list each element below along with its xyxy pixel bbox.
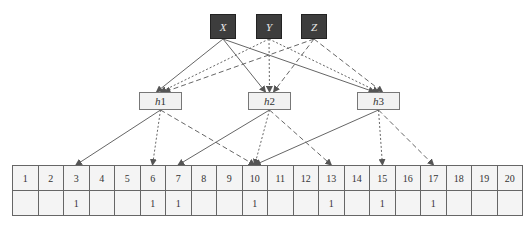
bit-value-cell [268, 191, 294, 216]
input-node-y: Y [256, 14, 282, 39]
bit-value-cell [472, 191, 498, 216]
hash-label-num: 2 [270, 95, 276, 107]
bit-value-cell [293, 191, 319, 216]
bit-index-cell: 6 [140, 166, 166, 191]
bit-index-cell: 4 [89, 166, 115, 191]
bit-index-cell: 19 [472, 166, 498, 191]
bit-index-row: 1234567891011121314151617181920 [13, 166, 523, 191]
edge-h2-to-bit-10 [255, 110, 270, 165]
edge-h1-to-bit-3 [76, 110, 161, 165]
bit-value-cell: 1 [319, 191, 345, 216]
bit-value-cell [395, 191, 421, 216]
input-node-x: X [210, 14, 236, 39]
hash-node-h1: h1 [139, 92, 182, 110]
bit-value-cell: 1 [421, 191, 447, 216]
input-node-z: Z [301, 14, 327, 39]
edge-x-to-h1 [157, 39, 224, 92]
edge-z-to-h1 [165, 39, 315, 92]
bit-value-cell [344, 191, 370, 216]
bit-index-cell: 15 [370, 166, 396, 191]
bit-index-cell: 8 [191, 166, 217, 191]
edge-y-to-h2 [269, 39, 270, 92]
edge-x-to-h3 [223, 39, 375, 92]
bit-index-cell: 2 [38, 166, 64, 191]
bit-index-cell: 11 [268, 166, 294, 191]
edge-h3-to-bit-15 [379, 110, 383, 165]
edge-h2-to-bit-7 [178, 110, 269, 165]
bit-value-cell [217, 191, 243, 216]
hash-node-h2: h2 [248, 92, 291, 110]
bit-index-cell: 13 [319, 166, 345, 191]
bit-value-cell [38, 191, 64, 216]
bit-index-cell: 1 [13, 166, 39, 191]
bit-value-cell [497, 191, 523, 216]
bit-value-cell: 1 [242, 191, 268, 216]
bit-value-cell [191, 191, 217, 216]
bit-value-cell [446, 191, 472, 216]
edge-h3-to-bit-10 [255, 110, 379, 165]
hash-node-h3: h3 [357, 92, 400, 110]
edge-y-to-h1 [161, 39, 270, 92]
bit-index-cell: 17 [421, 166, 447, 191]
bit-index-cell: 16 [395, 166, 421, 191]
bit-value-cell [115, 191, 141, 216]
hash-label-num: 3 [379, 95, 385, 107]
bit-index-cell: 3 [64, 166, 90, 191]
bit-value-cell: 1 [370, 191, 396, 216]
hash-label-num: 1 [161, 95, 167, 107]
bit-index-cell: 5 [115, 166, 141, 191]
bit-index-cell: 7 [166, 166, 192, 191]
bit-index-cell: 10 [242, 166, 268, 191]
edge-h3-to-bit-17 [379, 110, 434, 165]
bit-array: 1234567891011121314151617181920 1111111 [12, 165, 523, 216]
bit-value-cell: 1 [140, 191, 166, 216]
edge-h1-to-bit-6 [153, 110, 161, 165]
bit-value-cell: 1 [166, 191, 192, 216]
bit-value-cell [89, 191, 115, 216]
bit-index-cell: 9 [217, 166, 243, 191]
bit-value-cell [13, 191, 39, 216]
bit-value-cell: 1 [64, 191, 90, 216]
edge-z-to-h2 [274, 39, 315, 92]
edge-h2-to-bit-13 [270, 110, 332, 165]
bit-index-cell: 18 [446, 166, 472, 191]
bit-index-cell: 20 [497, 166, 523, 191]
bit-index-cell: 12 [293, 166, 319, 191]
edge-h1-to-bit-10 [161, 110, 255, 165]
bit-value-row: 1111111 [13, 191, 523, 216]
bit-index-cell: 14 [344, 166, 370, 191]
